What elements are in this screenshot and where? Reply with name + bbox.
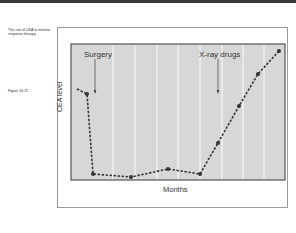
data-point — [216, 141, 220, 145]
data-point — [277, 49, 281, 53]
cea-line-chart: Surgery X-ray drugs Months — [0, 0, 296, 233]
data-point — [85, 92, 89, 96]
data-point — [256, 72, 260, 76]
data-point — [166, 167, 170, 171]
annotation-xray-drugs: X-ray drugs — [199, 50, 240, 59]
data-point — [237, 104, 241, 108]
data-point — [91, 172, 95, 176]
x-axis-label: Months — [163, 185, 188, 194]
data-point — [198, 172, 202, 176]
data-point — [129, 175, 133, 179]
y-axis-label: CEA level — [56, 82, 63, 112]
annotation-surgery: Surgery — [84, 50, 112, 59]
